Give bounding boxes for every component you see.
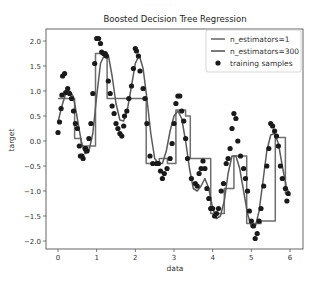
training-sample-point (108, 91, 113, 96)
training-sample-point (164, 166, 169, 171)
training-sample-point (210, 206, 215, 211)
training-sample-point (283, 186, 288, 191)
training-sample-point (249, 218, 254, 223)
training-sample-point (92, 61, 97, 66)
training-sample-point (177, 93, 182, 98)
training-sample-point (179, 108, 184, 113)
training-sample-point (67, 91, 72, 96)
training-sample-point (286, 191, 291, 196)
y-tick-label: 0.5 (30, 113, 41, 121)
x-tick-label: 5 (249, 254, 253, 262)
training-sample-point (274, 133, 279, 138)
training-sample-point (206, 196, 211, 201)
y-tick-label: −0.5 (24, 163, 41, 171)
training-sample-point (110, 103, 115, 108)
training-sample-point (200, 158, 205, 163)
training-sample-point (276, 143, 281, 148)
training-sample-point (243, 176, 248, 181)
training-sample-point (81, 156, 86, 161)
training-sample-point (142, 96, 147, 101)
training-sample-point (264, 163, 269, 168)
training-sample-point (129, 83, 134, 88)
training-sample-point (131, 66, 136, 71)
training-sample-point (162, 171, 167, 176)
training-sample-point (112, 111, 117, 116)
training-sample-point (272, 128, 277, 133)
y-tick-label: 1.0 (30, 88, 41, 96)
training-sample-point (113, 121, 118, 126)
y-tick-label: 0.0 (30, 138, 41, 146)
training-sample-point (124, 108, 129, 113)
legend-marker-samples-icon (215, 60, 220, 65)
y-axis-label: target (7, 129, 16, 152)
training-sample-point (229, 126, 234, 131)
chart-container: · · · · · · · · Boosted Decision Tree Re… (0, 0, 316, 286)
training-sample-point (141, 86, 146, 91)
training-sample-point (221, 181, 226, 186)
training-sample-point (170, 141, 175, 146)
training-sample-point (233, 116, 238, 121)
training-sample-point (126, 96, 131, 101)
training-sample-point (216, 206, 221, 211)
x-tick-label: 6 (288, 254, 293, 262)
x-tick-label: 3 (172, 254, 176, 262)
training-sample-point (171, 121, 176, 126)
training-sample-point (258, 206, 263, 211)
training-sample-point (147, 153, 152, 158)
training-sample-point (86, 136, 91, 141)
training-sample-point (231, 111, 236, 116)
training-sample-point (65, 86, 70, 91)
y-tick-label: −2.0 (24, 238, 41, 246)
training-sample-point (241, 166, 246, 171)
training-sample-point (266, 146, 271, 151)
training-sample-point (202, 166, 207, 171)
training-sample-point (257, 218, 262, 223)
training-sample-point (214, 211, 219, 216)
training-sample-point (160, 176, 165, 181)
legend-label-samples: training samples (230, 59, 293, 68)
training-sample-point (189, 176, 194, 181)
training-sample-point (136, 53, 141, 58)
training-sample-point (226, 156, 231, 161)
training-sample-point (106, 78, 111, 83)
training-sample-point (185, 156, 190, 161)
training-sample-point (204, 186, 209, 191)
training-sample-point (197, 171, 202, 176)
training-sample-point (55, 130, 60, 135)
training-sample-point (119, 133, 124, 138)
training-sample-point (62, 71, 67, 76)
training-sample-point (228, 146, 233, 151)
training-sample-point (84, 148, 89, 153)
training-sample-point (245, 188, 250, 193)
training-sample-point (278, 163, 283, 168)
training-sample-point (183, 136, 188, 141)
training-sample-point (247, 208, 252, 213)
training-sample-point (75, 126, 80, 131)
training-sample-point (280, 176, 285, 181)
training-sample-point (121, 123, 126, 128)
y-tick-label: −1.5 (24, 213, 41, 221)
training-sample-point (69, 96, 74, 101)
chart-title: Boosted Decision Tree Regression (103, 14, 246, 24)
x-tick-label: 4 (210, 254, 215, 262)
y-axis-ticks: 2.01.51.00.50.0−0.5−1.0−1.5−2.0 (24, 38, 46, 246)
training-sample-point (219, 188, 224, 193)
training-sample-point (270, 123, 275, 128)
training-sample-point (168, 156, 173, 161)
training-sample-point (122, 113, 127, 118)
training-sample-point (238, 153, 243, 158)
legend: n_estimators=1 n_estimators=300 training… (206, 30, 301, 72)
training-sample-point (71, 108, 76, 113)
training-sample-point (115, 126, 120, 131)
x-tick-label: 0 (56, 254, 60, 262)
training-sample-point (173, 101, 178, 106)
chart-svg: Boosted Decision Tree Regression 2.01.51… (0, 0, 316, 286)
training-sample-point (104, 53, 109, 58)
training-sample-point (235, 138, 240, 143)
training-sample-point (284, 198, 289, 203)
x-axis-ticks: 0123456 (56, 249, 293, 262)
training-sample-point (73, 121, 78, 126)
y-tick-label: −1.0 (24, 188, 41, 196)
training-sample-point (77, 143, 82, 148)
x-tick-label: 2 (133, 254, 137, 262)
